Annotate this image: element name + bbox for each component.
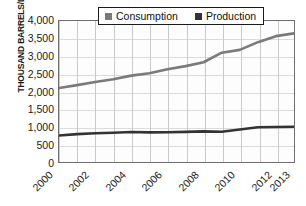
plot-area bbox=[58, 20, 295, 163]
x-tick-label: 2006 bbox=[139, 168, 164, 193]
chart-container: THOUSAND BARRELS/DAY 4,0003,5003,0002,50… bbox=[0, 0, 306, 206]
x-tick-label: 2012 bbox=[249, 168, 274, 193]
x-tick-label: 2004 bbox=[103, 168, 128, 193]
x-tick-label: 2000 bbox=[30, 168, 55, 193]
legend-swatch-consumption bbox=[105, 13, 112, 20]
y-axis-tick-labels: 4,0003,5003,0002,5002,0001,5001,0005000 bbox=[17, 20, 54, 163]
legend-swatch-production bbox=[195, 13, 202, 20]
y-tick-label: 4,000 bbox=[18, 15, 54, 26]
y-tick-label: 3,500 bbox=[18, 33, 54, 44]
series-line-production bbox=[59, 127, 294, 136]
legend-label-production: Production bbox=[206, 10, 256, 22]
legend-label-consumption: Consumption bbox=[116, 10, 178, 22]
y-tick-label: 500 bbox=[18, 140, 54, 151]
chart-legend: Consumption Production bbox=[98, 7, 264, 25]
y-tick-label: 2,500 bbox=[18, 68, 54, 79]
x-tick-label: 2013 bbox=[267, 168, 292, 193]
y-tick-label: 2,000 bbox=[18, 86, 54, 97]
x-tick-label: 2002 bbox=[66, 168, 91, 193]
y-tick-label: 0 bbox=[18, 158, 54, 169]
x-tick-label: 2010 bbox=[212, 168, 237, 193]
y-tick-label: 1,500 bbox=[18, 104, 54, 115]
y-tick-label: 1,000 bbox=[18, 122, 54, 133]
series-lines bbox=[59, 21, 294, 162]
y-tick-label: 3,000 bbox=[18, 51, 54, 62]
legend-item-consumption: Consumption bbox=[105, 10, 178, 22]
x-tick-label: 2008 bbox=[176, 168, 201, 193]
legend-item-production: Production bbox=[195, 10, 256, 22]
series-line-consumption bbox=[59, 33, 294, 88]
